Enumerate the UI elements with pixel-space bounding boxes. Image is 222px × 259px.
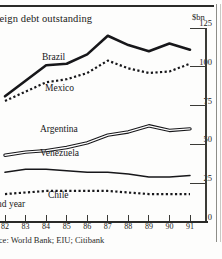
x-tick-label-88: 88: [120, 222, 136, 231]
series-argentina: [5, 126, 190, 155]
series-mexico: [5, 61, 190, 101]
x-tick-84: [46, 215, 47, 221]
x-tick-90: [169, 215, 170, 221]
series-line-outer-argentina: [5, 126, 190, 155]
series-brazil: [5, 36, 190, 97]
series-label-mexico: Mexico: [45, 83, 74, 93]
x-tick-label-90: 90: [161, 222, 177, 231]
series-chile: [5, 191, 190, 194]
series-line-venezuela: [5, 169, 190, 177]
x-tick-83: [25, 215, 26, 221]
chart-figure: reign debt outstanding $bn 1251007550250…: [0, 0, 222, 259]
series-line-mexico: [5, 61, 190, 101]
x-tick-89: [148, 215, 149, 221]
x-tick-label-91: 91: [182, 222, 198, 231]
x-tick-label-82: 82: [0, 222, 13, 231]
series-label-argentina: Argentina: [40, 124, 78, 134]
x-axis-caption: nd year: [0, 199, 25, 209]
x-tick-label-87: 87: [100, 222, 116, 231]
x-tick-label-84: 84: [38, 222, 54, 231]
top-rule: [0, 5, 214, 7]
series-label-chile: Chile: [48, 190, 69, 200]
series-label-brazil: Brazil: [42, 52, 65, 62]
plot-area: [0, 20, 208, 225]
x-tick-label-85: 85: [59, 222, 75, 231]
y-tick-label-25: 25: [190, 173, 212, 183]
y-tick-label-50: 50: [190, 134, 212, 144]
y-axis-spine: [205, 28, 207, 222]
y-tick-label-75: 75: [190, 96, 212, 106]
right-frame-line-outer: [220, 4, 221, 242]
source-note: rce: World Bank; EIU; Citibank: [0, 235, 104, 245]
x-tick-88: [128, 215, 129, 221]
x-tick-85: [66, 215, 67, 221]
x-tick-87: [107, 215, 108, 221]
y-tick-label-100: 100: [190, 57, 212, 67]
series-label-venezuela: Venezuela: [40, 148, 79, 158]
y-tick-label-125: 125: [190, 18, 212, 28]
x-tick-label-89: 89: [141, 222, 157, 231]
chart-svg: [0, 20, 208, 225]
x-tick-91: [190, 215, 191, 221]
series-line-chile: [5, 191, 190, 194]
series-venezuela: [5, 169, 190, 177]
x-tick-label-86: 86: [79, 222, 95, 231]
series-line-brazil: [5, 36, 190, 97]
x-tick-label-83: 83: [18, 222, 34, 231]
right-frame-line: [216, 4, 217, 242]
x-tick-82: [5, 215, 6, 221]
x-tick-86: [87, 215, 88, 221]
